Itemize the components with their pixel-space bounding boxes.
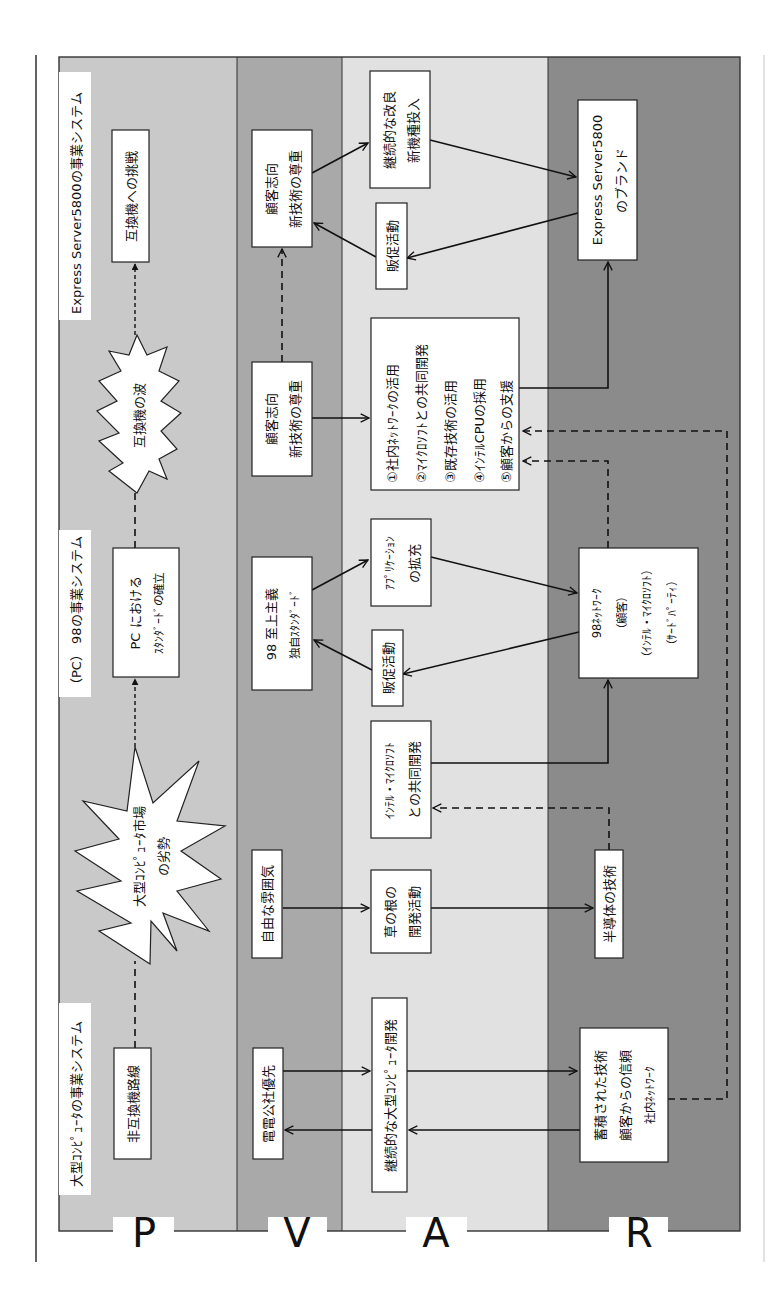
svg-text:新機種投入: 新機種投入 [406, 98, 421, 163]
diagram-canvas: P V A R 大型ｺﾝﾋﾟｭｰﾀの事業システム （PC） 98の事業システム … [0, 0, 773, 1293]
svg-text:ｲﾝﾃﾙ・ﾏｲｸﾛｿﾌﾄ: ｲﾝﾃﾙ・ﾏｲｸﾛｿﾌﾄ [383, 742, 397, 819]
svg-text:との共同開発: との共同開発 [407, 741, 422, 819]
box-network98: 98ﾈｯﾄﾜｰｸ （顧客） （ｲﾝﾃﾙ・ﾏｲｸﾛｿﾌﾄ） （ｻｰﾄﾞﾊﾟｰﾃｨ） [579, 548, 698, 678]
svg-text:自由な雰囲気: 自由な雰囲気 [260, 865, 275, 943]
svg-text:独自ｽﾀﾝﾀﾞｰﾄﾞ: 独自ｽﾀﾝﾀﾞｰﾄﾞ [288, 589, 302, 659]
box-grassroots-dev: 草の根の 開発活動 [371, 870, 431, 953]
svg-text:半導体の技術: 半導体の技術 [602, 865, 617, 943]
box-continuous-mainframe-dev: 継続的な大型ｺﾝﾋﾟｭｰﾀ開発 [372, 998, 407, 1192]
box-sales-promo-2: 販促活動 [376, 203, 407, 289]
svg-text:（ｲﾝﾃﾙ・ﾏｲｸﾛｿﾌﾄ）: （ｲﾝﾃﾙ・ﾏｲｸﾛｿﾌﾄ） [640, 564, 654, 663]
phase-title-pc98: （PC） 98の事業システム [69, 536, 84, 691]
box-sales-promo-1: 販促活動 [372, 630, 403, 706]
svg-text:蓄積された技術: 蓄積された技術 [593, 1050, 608, 1141]
svg-text:98ﾈｯﾄﾜｰｸ: 98ﾈｯﾄﾜｰｸ [590, 588, 604, 639]
burst-text: 互換機の波 [132, 383, 147, 448]
svg-text:（顧客）: （顧客） [615, 591, 629, 635]
svg-text:販促活動: 販促活動 [381, 642, 396, 694]
rotated-diagram: P V A R 大型ｺﾝﾋﾟｭｰﾀの事業システム （PC） 98の事業システム … [59, 57, 740, 1256]
svg-text:継続的な改良: 継続的な改良 [382, 91, 397, 169]
list-item: ④ｲﾝﾃﾙCPUの採用 [472, 378, 487, 483]
svg-text:ｽﾀﾝﾀﾞｰﾄﾞの確立: ｽﾀﾝﾀﾞｰﾄﾞの確立 [152, 573, 166, 654]
box-accumulated-assets: 蓄積された技術 顧客からの信頼 社内ﾈｯﾄﾜｰｸ [580, 1028, 668, 1162]
list-item: ③既存技術の活用 [443, 380, 458, 483]
svg-text:98 至上主義: 98 至上主義 [264, 588, 279, 661]
svg-text:新技術の尊重: 新技術の尊重 [288, 150, 303, 228]
band-label-r: R [625, 1210, 653, 1256]
svg-text:継続的な大型ｺﾝﾋﾟｭｰﾀ開発: 継続的な大型ｺﾝﾋﾟｭｰﾀ開発 [383, 1019, 398, 1172]
svg-text:互換機への挑戦: 互換機への挑戦 [124, 151, 139, 242]
phase-title-mainframe: 大型ｺﾝﾋﾟｭｰﾀの事業システム [69, 1021, 84, 1187]
svg-text:開発活動: 開発活動 [407, 886, 422, 938]
phase-title-express: Express Server5800の事業システム [69, 92, 84, 314]
svg-text:販促活動: 販促活動 [385, 220, 400, 272]
svg-text:顧客からの信頼: 顧客からの信頼 [618, 1050, 633, 1141]
box-app-expansion: ｱﾌﾟﾘｹｰｼｮﾝ の拡充 [371, 519, 431, 606]
svg-text:のブランド: のブランド [614, 148, 629, 213]
svg-text:電電公社優先: 電電公社優先 [261, 1065, 276, 1143]
list-item: ①社内ﾈｯﾄﾜｰｸの活用 [385, 364, 400, 483]
box-98-supremacy: 98 至上主義 独自ｽﾀﾝﾀﾞｰﾄﾞ [252, 557, 312, 690]
svg-text:PC における: PC における [128, 576, 143, 649]
svg-text:ｱﾌﾟﾘｹｰｼｮﾝ: ｱﾌﾟﾘｹｰｼｮﾝ [383, 536, 397, 590]
band-label-a: A [422, 1210, 450, 1256]
box-compatible-challenge: 互換機への挑戦 [112, 130, 149, 262]
svg-text:草の根の: 草の根の [383, 886, 398, 938]
band-label-p: P [132, 1210, 156, 1256]
svg-text:Express Server5800: Express Server5800 [590, 115, 605, 246]
band-label-v: V [283, 1210, 311, 1256]
box-non-compatible: 非互換機路線 [114, 1048, 151, 1159]
box-customer-orient-2: 顧客志向 新技術の尊重 [252, 130, 312, 247]
svg-text:の拡充: の拡充 [407, 544, 422, 583]
burst-text: の劣勢 [156, 837, 171, 876]
box-strategy-list: ①社内ﾈｯﾄﾜｰｸの活用 ②ﾏｲｸﾛｿﾌﾄとの共同開発 ③既存技術の活用 ④ｲﾝ… [371, 318, 519, 490]
pvar-diagram: P V A R 大型ｺﾝﾋﾟｭｰﾀの事業システム （PC） 98の事業システム … [0, 0, 773, 1293]
svg-text:社内ﾈｯﾄﾜｰｸ: 社内ﾈｯﾄﾜｰｸ [643, 1066, 657, 1124]
svg-text:顧客志向: 顧客志向 [264, 393, 279, 445]
svg-text:非互換機路線: 非互換機路線 [126, 1065, 141, 1143]
svg-text:新技術の尊重: 新技術の尊重 [288, 380, 303, 458]
box-customer-orient-1: 顧客志向 新技術の尊重 [252, 362, 312, 476]
box-continuous-improvement: 継続的な改良 新機種投入 [370, 71, 430, 188]
svg-text:（ｻｰﾄﾞﾊﾟｰﾃｨ）: （ｻｰﾄﾞﾊﾟｰﾃｨ） [665, 575, 679, 651]
box-semiconductor: 半導体の技術 [595, 850, 623, 958]
box-nttc-priority: 電電公社優先 [253, 1048, 283, 1159]
box-brand: Express Server5800 のブランド [578, 100, 637, 260]
svg-text:顧客志向: 顧客志向 [264, 163, 279, 215]
list-item: ②ﾏｲｸﾛｿﾌﾄとの共同開発 [414, 344, 429, 483]
box-pc-standard: PC における ｽﾀﾝﾀﾞｰﾄﾞの確立 [113, 548, 179, 677]
burst-text: 大型ｺﾝﾋﾟｭｰﾀ市場 [132, 806, 147, 907]
box-intel-ms-joint: ｲﾝﾃﾙ・ﾏｲｸﾛｿﾌﾄ との共同開発 [371, 721, 431, 838]
list-item: ⑤顧客からの支援 [499, 380, 514, 483]
box-free-atmosphere: 自由な雰囲気 [252, 850, 282, 958]
